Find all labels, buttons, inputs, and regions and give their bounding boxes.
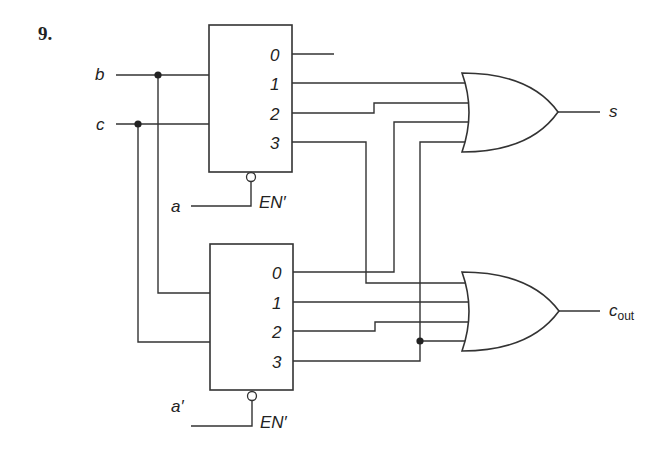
output-s-label: s [609,102,618,121]
bottom-decoder-enable-label: EN′ [260,413,288,432]
input-a-prime-label: a′ [171,397,184,416]
input-c-label: c [96,115,105,134]
bottom-decoder-output-1: 1 [272,294,281,313]
input-a-label: a [171,197,180,216]
input-wires [116,71,210,342]
circuit-diagram: 9. b c a a′ 0 1 2 3 EN′ 0 1 2 3 EN′ [0,0,670,449]
input-b-label: b [95,65,104,84]
bottom-decoder: 0 1 2 3 EN′ [191,244,293,432]
or-gate-cout: cout [462,272,635,351]
junction-dot-b [154,71,161,78]
junction-dot-c [134,120,141,127]
bottom-decoder-output-2: 2 [271,323,282,342]
top-decoder-output-3: 3 [270,134,280,153]
top-enable-bubble [247,173,256,182]
bottom-decoder-output-3: 3 [272,353,282,372]
bottom-decoder-output-0: 0 [272,264,282,283]
output-cout-label: cout [609,301,635,323]
top-decoder-enable-label: EN′ [259,193,287,212]
bottom-decoder-output-wires [293,122,470,361]
top-decoder-output-wires [292,54,470,283]
top-decoder-output-0: 0 [270,46,280,65]
bottom-enable-bubble [248,392,257,401]
problem-number: 9. [38,23,52,44]
top-decoder-output-2: 2 [269,105,280,124]
top-decoder-output-1: 1 [270,75,279,94]
top-decoder: 0 1 2 3 EN′ [191,25,292,212]
or-gate-s: s [462,73,618,152]
junction-dot-bottom3 [416,337,423,344]
